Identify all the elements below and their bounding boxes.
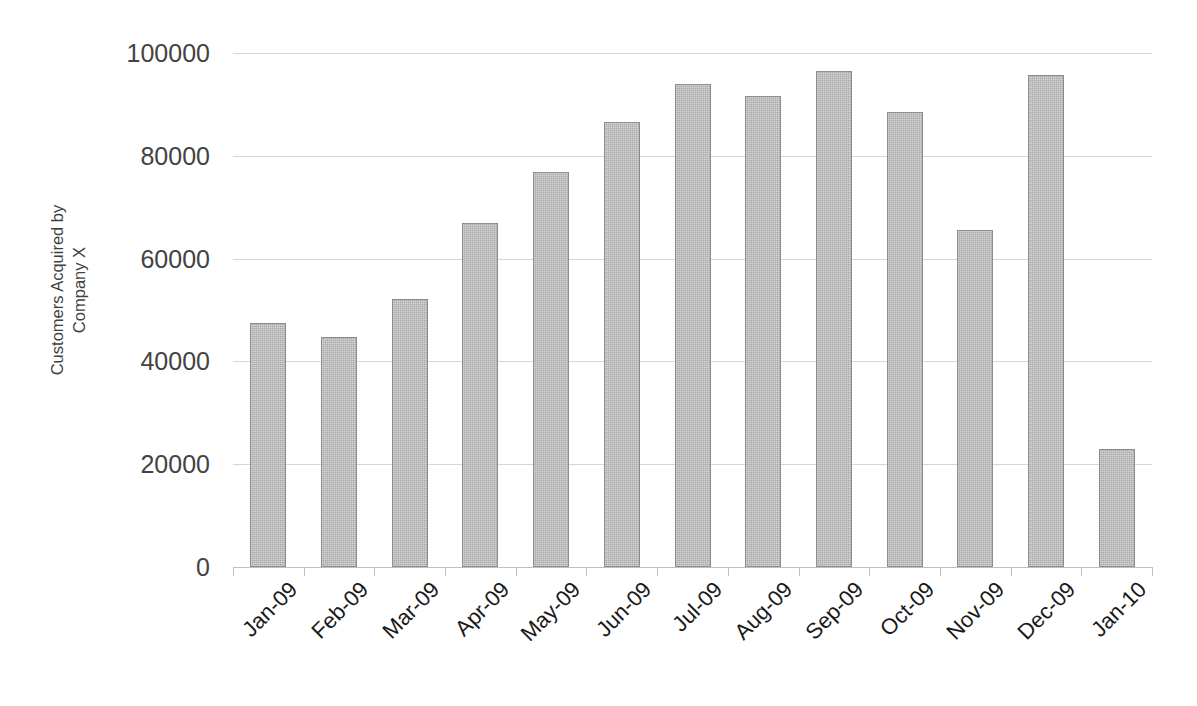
x-axis-tick-label: Sep-09 [802, 578, 868, 644]
bar-chart: Customers Acquired by Company X 02000040… [0, 0, 1197, 706]
x-axis-tick-label: Nov-09 [943, 578, 1009, 644]
x-axis-tick-label: Jun-09 [592, 578, 655, 641]
x-axis-tick [304, 567, 305, 576]
x-axis-tick [940, 567, 941, 576]
x-axis-tick [657, 567, 658, 576]
bars-layer [233, 53, 1152, 567]
bar [1028, 75, 1064, 567]
x-axis-tick [445, 567, 446, 576]
x-axis-tick-label: Mar-09 [378, 578, 443, 643]
y-axis-tick-label: 100000 [60, 41, 210, 66]
x-axis-tick [1011, 567, 1012, 576]
bar [250, 323, 286, 567]
x-axis-tick-label: Aug-09 [731, 578, 797, 644]
bar [533, 172, 569, 567]
plot-area [233, 53, 1152, 567]
x-axis-tick-label: Oct-09 [876, 578, 938, 640]
x-axis-tick-label: May-09 [517, 578, 584, 645]
x-axis-tick [799, 567, 800, 576]
x-axis-tick-label: Dec-09 [1014, 578, 1080, 644]
x-axis-tick [728, 567, 729, 576]
x-axis-tick-label: Jan-10 [1087, 578, 1150, 641]
x-axis-tick [233, 567, 234, 576]
x-axis-tick-label: Feb-09 [308, 578, 373, 643]
y-axis-tick-label: 80000 [60, 143, 210, 168]
y-axis-tick-label: 20000 [60, 452, 210, 477]
x-axis-tick [1152, 567, 1153, 576]
bar [1099, 449, 1135, 567]
bar [745, 96, 781, 567]
bar [604, 122, 640, 567]
x-axis-tick-label: Apr-09 [452, 578, 514, 640]
x-axis-tick [516, 567, 517, 576]
y-axis-tick-label: 40000 [60, 349, 210, 374]
bar [816, 71, 852, 567]
bar [392, 299, 428, 567]
x-axis-line [233, 567, 1152, 568]
bar [321, 337, 357, 567]
y-axis-tick-label: 0 [60, 555, 210, 580]
x-axis-tick [869, 567, 870, 576]
bar [462, 223, 498, 567]
bar [957, 230, 993, 567]
x-axis-tick [586, 567, 587, 576]
x-axis-tick-label: Jul-09 [668, 578, 726, 636]
y-axis-tick-label: 60000 [60, 246, 210, 271]
x-axis-tick [374, 567, 375, 576]
bar [887, 112, 923, 567]
x-axis-tick-label: Jan-09 [239, 578, 302, 641]
x-axis-tick [1081, 567, 1082, 576]
y-axis-tick-labels: 020000400006000080000100000 [60, 0, 210, 706]
bar [675, 84, 711, 567]
